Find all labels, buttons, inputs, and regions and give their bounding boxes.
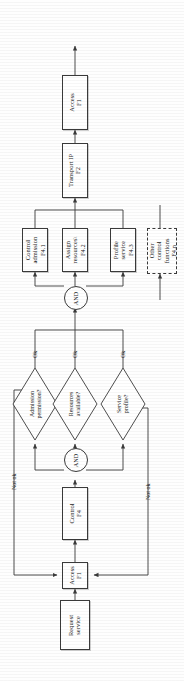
node-assign-resources[interactable]: Assign resources\ F4.2 [62, 228, 88, 272]
edge-label-not-ok-1: Not ok [11, 474, 17, 491]
node-control-admission[interactable]: Control admission F4.1 [22, 228, 48, 272]
decision-service-profile-label: Service profile? [101, 368, 145, 440]
decision-resources-available[interactable]: Resources available? [53, 368, 97, 440]
node-control-f4-label: Control F4 [68, 503, 83, 523]
node-access-top[interactable]: Access F1 [62, 75, 88, 130]
decision-resources-available-label: Resources available? [53, 368, 97, 440]
diagram-canvas: Access F1 Transport IP F2 Control admiss… [0, 0, 184, 681]
node-assign-resources-label: Assign resources\ F4.2 [64, 237, 86, 264]
edge-label-ok-2: Ok [72, 351, 78, 358]
node-access-top-label: Access F1 [68, 93, 83, 112]
diagram-connectors [0, 0, 184, 681]
node-control-admission-label: Control admission F4.1 [24, 237, 46, 264]
node-other-control-functions-label: Other control functions F4.n [147, 239, 177, 264]
node-profile-service[interactable]: Profile service F4.3 [110, 228, 136, 272]
gate-and-upper[interactable]: AND [64, 286, 88, 310]
gate-and-lower[interactable]: AND [64, 448, 88, 472]
node-request-service-label: Request service [68, 614, 83, 635]
node-access-bottom-label: Access F1 [68, 566, 83, 585]
node-transport-ip[interactable]: Transport IP F2 [62, 143, 88, 198]
decision-service-profile[interactable]: Service profile? [101, 368, 145, 440]
edge-label-not-ok-2: Not ok [145, 484, 151, 501]
node-transport-ip-label: Transport IP F2 [68, 154, 83, 187]
node-request-service[interactable]: Request service [60, 600, 90, 650]
edge-label-ok-1: Ok [32, 351, 38, 358]
edge-label-ok-3: Ok [120, 351, 126, 358]
node-control-f4[interactable]: Control F4 [62, 487, 88, 540]
node-profile-service-label: Profile service F4.3 [112, 241, 134, 260]
decision-admission-permission[interactable]: Admission permission? [13, 368, 57, 440]
node-other-control-functions[interactable]: Other control functions F4.n [147, 228, 177, 274]
decision-admission-permission-label: Admission permission? [13, 368, 57, 440]
node-access-bottom[interactable]: Access F1 [62, 562, 88, 589]
